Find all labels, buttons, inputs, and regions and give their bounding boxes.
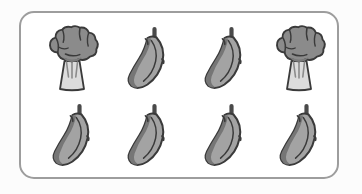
produce-grid — [21, 13, 337, 177]
broccoli-icon — [268, 25, 330, 95]
grid-item-banana[interactable] — [187, 99, 261, 175]
grid-item-banana[interactable] — [110, 22, 184, 98]
grid-item-banana[interactable] — [187, 22, 261, 98]
grid-item-broccoli[interactable] — [35, 22, 109, 98]
grid-item-banana[interactable] — [262, 99, 336, 175]
banana-icon — [273, 103, 325, 171]
banana-icon — [46, 103, 98, 171]
grid-item-banana[interactable] — [110, 99, 184, 175]
produce-panel — [19, 11, 339, 179]
screenshot-stage — [0, 0, 362, 194]
grid-item-broccoli[interactable] — [262, 22, 336, 98]
banana-icon — [198, 26, 250, 94]
banana-icon — [121, 26, 173, 94]
banana-icon — [198, 103, 250, 171]
banana-icon — [121, 103, 173, 171]
broccoli-icon — [41, 25, 103, 95]
grid-item-banana[interactable] — [35, 99, 109, 175]
